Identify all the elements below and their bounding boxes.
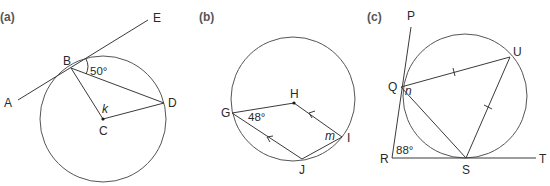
point-label-u: U [513, 45, 522, 59]
point-label-d: D [168, 96, 177, 110]
panel-c: (c) P Q R S T U 88° n [367, 9, 547, 177]
point-label-j: J [299, 163, 305, 177]
unknown-k: k [102, 102, 109, 116]
unknown-m: m [325, 129, 335, 143]
segment-gj [232, 113, 302, 159]
unknown-n: n [405, 84, 412, 98]
chord-qu [401, 57, 510, 87]
radius-cd [103, 103, 164, 119]
point-label-b: B [63, 54, 71, 68]
angle-label-50: 50° [90, 65, 107, 77]
angle-label-48: 48° [248, 111, 265, 123]
point-label-s: S [462, 163, 470, 177]
point-label-c: C [99, 124, 108, 138]
angle-label-88: 88° [396, 144, 413, 156]
point-label-a: A [4, 96, 12, 110]
panel-a-label: (a) [0, 10, 15, 24]
panel-a: (a) A B C D E 50° k [0, 10, 177, 182]
panel-c-label: (c) [367, 10, 382, 24]
diagram-stage: (a) A B C D E 50° k (b) [0, 0, 550, 186]
point-label-h: H [290, 87, 299, 101]
geometry-figure: (a) A B C D E 50° k (b) [0, 0, 550, 186]
panel-b: (b) G H I J 48° m [199, 10, 355, 177]
point-label-p: P [407, 9, 415, 23]
segment-ji [302, 137, 342, 159]
point-label-q: Q [388, 80, 397, 94]
point-label-g: G [221, 106, 230, 120]
point-label-e: E [153, 11, 161, 25]
centre-dot-h [292, 101, 295, 104]
point-label-t: T [539, 152, 547, 166]
angle-arc-50 [86, 59, 88, 74]
panel-b-label: (b) [199, 10, 214, 24]
point-label-i: I [347, 131, 350, 145]
chord-bd [71, 68, 164, 103]
circle-c [403, 34, 527, 158]
centre-dot-c [101, 117, 104, 120]
point-label-r: R [380, 152, 389, 166]
